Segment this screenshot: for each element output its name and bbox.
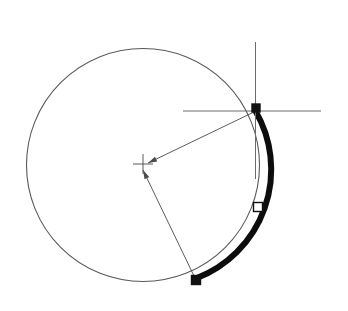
- drawing-canvas[interactable]: [0, 0, 348, 311]
- arc-midpoint-grip[interactable]: [254, 203, 263, 212]
- highlighted-arc[interactable]: [197, 111, 271, 278]
- radius-leader-bottom: [143, 170, 194, 276]
- circle-center-node[interactable]: [133, 154, 153, 174]
- cad-diagram-svg[interactable]: [0, 0, 348, 311]
- radius-leader-top: [148, 112, 254, 163]
- radius-leader-top-arrowhead: [148, 157, 157, 163]
- arc-start-grip[interactable]: [252, 104, 260, 112]
- radius-leader-bottom-arrowhead: [143, 170, 149, 179]
- arc-end-grip[interactable]: [192, 276, 201, 285]
